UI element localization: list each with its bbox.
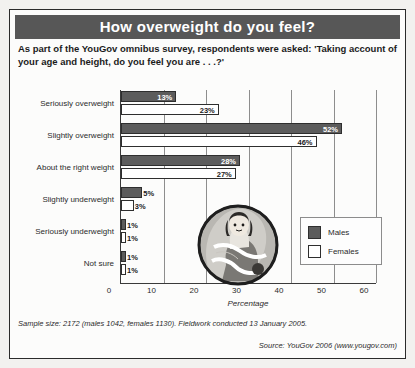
woman-with-tape-measure-illustration	[196, 203, 280, 287]
gridline	[291, 90, 292, 283]
plot-area: 0102030405060 Seriously overweightSlight…	[10, 86, 405, 306]
bar-females: 1%	[121, 232, 126, 243]
x-tick-label: 40	[267, 286, 291, 295]
category-label: About the right weight	[37, 163, 114, 172]
x-tick-label: 30	[225, 286, 249, 295]
bar-females: 46%	[121, 136, 317, 147]
category-label: Seriously underweight	[35, 227, 114, 236]
bar-value-label: 28%	[221, 156, 236, 167]
title-bar: How overweight do you feel?	[15, 15, 400, 39]
legend-swatch-males-icon	[308, 226, 321, 239]
gridline	[164, 90, 165, 283]
legend-swatch-females-icon	[308, 245, 321, 258]
bar-males: 1%	[121, 219, 126, 230]
bar-value-label: 1%	[127, 233, 138, 244]
x-axis-title: Percentage	[120, 299, 376, 308]
bar-value-label: 23%	[200, 105, 215, 116]
chart-page: How overweight do you feel? As part of t…	[0, 0, 415, 368]
category-label: Seriously overweight	[40, 99, 114, 108]
x-tick-label: 50	[310, 286, 334, 295]
legend-label-females: Females	[328, 244, 359, 259]
bar-value-label: 1%	[127, 220, 138, 231]
bar-males: 5%	[121, 187, 142, 198]
bar-males: 13%	[121, 91, 176, 102]
category-label: Slightly overweight	[47, 131, 114, 140]
bar-females: 23%	[121, 104, 219, 115]
bar-females: 27%	[121, 168, 236, 179]
sample-size-note: Sample size: 2172 (males 1042, females 1…	[18, 319, 307, 328]
bar-females: 1%	[121, 264, 126, 275]
bar-males: 1%	[121, 251, 126, 262]
chart-frame: How overweight do you feel? As part of t…	[9, 9, 406, 359]
bar-value-label: 46%	[297, 137, 312, 148]
bar-value-label: 13%	[157, 92, 172, 103]
bar-males: 52%	[121, 123, 342, 134]
category-label: Not sure	[84, 259, 114, 268]
source-note: Source: YouGov 2006 (www.yougov.com)	[259, 341, 397, 350]
chart-subtitle: As part of the YouGov omnibus survey, re…	[18, 43, 398, 68]
bar-males: 28%	[121, 155, 240, 166]
page-title: How overweight do you feel?	[15, 15, 400, 39]
x-tick-label: 20	[182, 286, 206, 295]
bar-females: 3%	[121, 200, 134, 211]
x-tick-label: 10	[140, 286, 164, 295]
bar-value-label: 52%	[323, 124, 338, 135]
legend-label-males: Males	[328, 225, 349, 240]
bar-value-label: 3%	[135, 201, 146, 212]
bar-value-label: 1%	[127, 265, 138, 276]
x-tick-label: 60	[352, 286, 376, 295]
legend: Males Females	[300, 217, 382, 265]
bar-value-label: 27%	[217, 169, 232, 180]
x-tick-label: 0	[97, 286, 121, 295]
category-label: Slightly underweight	[42, 195, 114, 204]
bar-value-label: 1%	[127, 252, 138, 263]
bar-value-label: 5%	[143, 188, 154, 199]
